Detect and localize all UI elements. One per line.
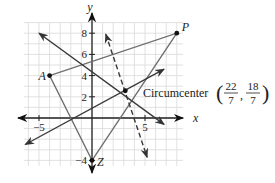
point-a	[47, 73, 52, 78]
x-tick-label: −5	[33, 121, 45, 133]
label-z: Z	[97, 155, 104, 169]
x-axis-label: x	[192, 111, 199, 125]
y-axis-label: y	[86, 0, 93, 14]
label-p: P	[181, 20, 190, 34]
dashed-bisector-line	[106, 34, 147, 157]
x-denominator: 7	[228, 94, 234, 106]
coordinate-diagram: −558642−4xy APZCircumcenter(227,187)	[0, 0, 275, 183]
y-tick-label: 8	[82, 27, 88, 39]
y-tick-label: 4	[82, 70, 88, 82]
labels: APZCircumcenter(227,187)	[38, 20, 270, 169]
circumcenter-label: Circumcenter	[143, 86, 208, 100]
comma: ,	[240, 88, 243, 102]
circumcenter-point	[123, 88, 128, 93]
y-tick-label: 2	[82, 91, 88, 103]
label-a: A	[38, 69, 47, 83]
y-denominator: 7	[250, 94, 256, 106]
y-tick-label: −4	[75, 154, 87, 166]
y-numerator: 18	[248, 80, 260, 92]
bisector-line	[25, 69, 164, 144]
paren-close: )	[262, 80, 269, 105]
point-p	[174, 31, 179, 36]
point-z	[90, 158, 95, 163]
y-tick-label: 6	[82, 48, 88, 60]
x-tick-label: 5	[142, 121, 148, 133]
paren-open: (	[216, 80, 223, 105]
x-numerator: 22	[226, 80, 237, 92]
